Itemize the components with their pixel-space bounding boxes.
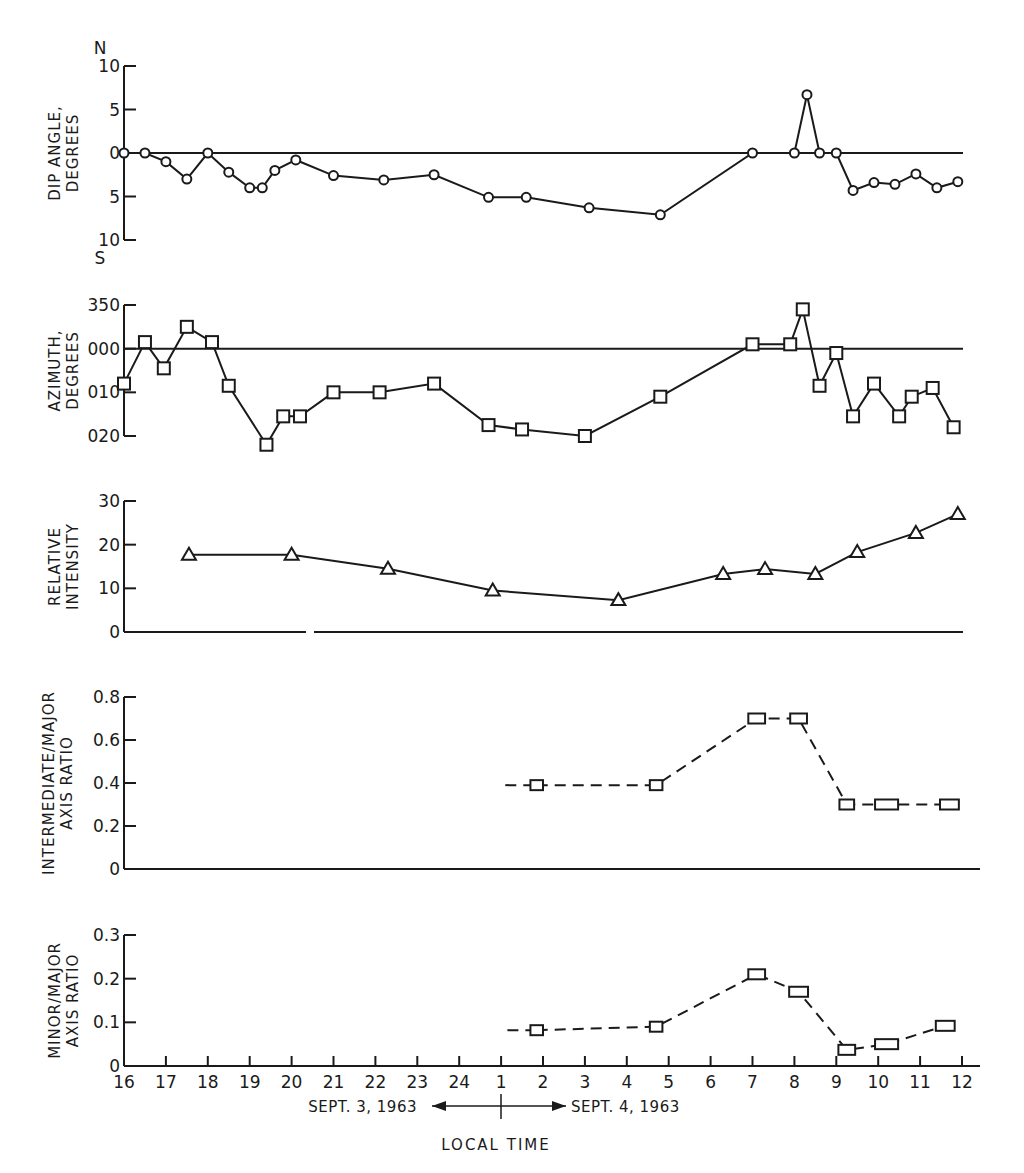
y-tick-label: 0.2 xyxy=(93,816,120,836)
square-marker xyxy=(847,410,859,422)
circle-marker xyxy=(870,178,879,187)
square-marker xyxy=(374,386,386,398)
square-marker xyxy=(483,419,495,431)
date-divider-arrows xyxy=(432,1094,566,1119)
square-marker xyxy=(223,380,235,392)
circle-marker xyxy=(656,210,665,219)
circle-marker xyxy=(585,203,594,212)
square-marker xyxy=(260,439,272,451)
y-axis-title: AZIMUTH,DEGREES xyxy=(46,329,82,411)
square-marker xyxy=(206,336,218,348)
square-marker xyxy=(328,386,340,398)
x-tick-label: 4 xyxy=(621,1072,632,1092)
data-series-line xyxy=(124,309,954,444)
y-tick-label: 20 xyxy=(98,535,120,555)
circle-marker xyxy=(953,177,962,186)
intermediate-major-ratio-panel: 0.80.60.40.20INTERMEDIATE/MAJORAXIS RATI… xyxy=(40,687,980,879)
y-tick-label: 0 xyxy=(109,143,120,163)
y-tick-label: 350 xyxy=(88,295,120,315)
square-marker xyxy=(747,338,759,350)
square-marker xyxy=(906,391,918,403)
circle-marker xyxy=(270,166,279,175)
y-tick-label: 10 xyxy=(98,578,120,598)
minor-major-ratio-panel: 0.30.20.10MINOR/MAJORAXIS RATIO xyxy=(46,925,980,1076)
y-tick-label: 0 xyxy=(109,622,120,642)
square-marker xyxy=(294,410,306,422)
circle-marker xyxy=(790,149,799,158)
circle-marker xyxy=(802,90,811,99)
circle-marker xyxy=(203,149,212,158)
circle-marker xyxy=(182,175,191,184)
x-axis-local-time: 161718192021222324123456789101112 xyxy=(113,1056,973,1092)
circle-marker xyxy=(258,183,267,192)
rectangle-marker xyxy=(789,987,808,997)
rectangle-marker xyxy=(936,1021,955,1031)
square-marker xyxy=(893,410,905,422)
x-tick-label: 18 xyxy=(197,1072,219,1092)
relative-intensity-panel: 3020100RELATIVEINTENSITY xyxy=(46,491,965,642)
circle-marker xyxy=(522,193,531,202)
x-tick-label: 21 xyxy=(323,1072,345,1092)
y-tick-label: 0.4 xyxy=(93,773,120,793)
circle-marker xyxy=(849,186,858,195)
arrow-left-icon xyxy=(432,1101,446,1111)
rectangle-marker xyxy=(838,1045,855,1055)
y-axis-title: RELATIVEINTENSITY xyxy=(46,523,82,610)
circle-marker xyxy=(140,149,149,158)
x-tick-label: 23 xyxy=(406,1072,428,1092)
data-series-line xyxy=(537,719,950,805)
circle-marker xyxy=(932,183,941,192)
y-tick-label: 5 xyxy=(109,187,120,207)
x-tick-label: 2 xyxy=(538,1072,549,1092)
triangle-marker xyxy=(951,507,965,519)
rectangle-marker xyxy=(875,800,898,810)
y-axis-title: MINOR/MAJORAXIS RATIO xyxy=(46,942,82,1059)
square-marker xyxy=(158,362,170,374)
triangle-marker xyxy=(758,562,772,574)
arrow-right-icon xyxy=(552,1101,566,1111)
y-tick-label: 10 xyxy=(98,230,120,250)
circle-marker xyxy=(430,170,439,179)
y-tick-label: 0.8 xyxy=(93,687,120,707)
y-tick-label: 000 xyxy=(88,339,120,359)
circle-marker xyxy=(832,149,841,158)
rectangle-marker xyxy=(650,780,663,790)
rectangle-marker xyxy=(530,1025,543,1035)
square-marker xyxy=(830,347,842,359)
azimuth-panel: 350000010020AZIMUTH,DEGREES xyxy=(46,295,963,451)
y-tick-label: 0.3 xyxy=(93,925,120,945)
rectangle-marker xyxy=(839,800,854,810)
x-tick-label: 12 xyxy=(951,1072,973,1092)
square-marker xyxy=(784,338,796,350)
y-axis-title: INTERMEDIATE/MAJORAXIS RATIO xyxy=(40,691,76,875)
x-tick-label: 7 xyxy=(747,1072,758,1092)
rectangle-marker xyxy=(530,780,543,790)
rectangle-marker xyxy=(875,1039,898,1049)
north-label: N xyxy=(94,38,107,58)
square-marker xyxy=(868,378,880,390)
y-axis-title: DIP ANGLE,DEGREES xyxy=(46,105,82,201)
x-tick-label: 8 xyxy=(789,1072,800,1092)
square-marker xyxy=(654,391,666,403)
data-series-line xyxy=(189,514,958,600)
rectangle-marker xyxy=(650,1022,663,1032)
x-tick-label: 17 xyxy=(155,1072,177,1092)
y-tick-label: 0.6 xyxy=(93,730,120,750)
square-marker xyxy=(927,382,939,394)
square-marker xyxy=(118,378,130,390)
square-marker xyxy=(814,380,826,392)
circle-marker xyxy=(815,149,824,158)
circle-marker xyxy=(291,155,300,164)
x-tick-label: 3 xyxy=(579,1072,590,1092)
rectangle-marker xyxy=(940,800,959,810)
geomagnetic-polarization-figure: 1050510NSDIP ANGLE,DEGREES 350000010020A… xyxy=(0,0,1024,1173)
rectangle-marker xyxy=(748,969,765,979)
circle-marker xyxy=(329,171,338,180)
circle-marker xyxy=(161,157,170,166)
circle-marker xyxy=(120,149,129,158)
square-marker xyxy=(181,321,193,333)
x-tick-label: 24 xyxy=(448,1072,470,1092)
y-tick-label: 10 xyxy=(98,56,120,76)
x-tick-label: 20 xyxy=(281,1072,303,1092)
y-tick-label: 0 xyxy=(109,859,120,879)
